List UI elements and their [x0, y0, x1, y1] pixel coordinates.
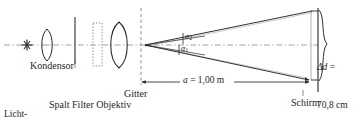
label-kondensor: Kondensor [30, 61, 74, 72]
spread-line1: Δd = [317, 61, 348, 74]
alpha1-subscript: 1 [185, 47, 188, 53]
label-schirm: Schirm [291, 98, 320, 109]
spread-equals: = [327, 62, 335, 72]
spread-symbol: Δd [317, 62, 327, 72]
label-angle-alpha1: α1 [181, 45, 188, 53]
spread-line2: 70,8 cm [317, 99, 348, 112]
annotation-distance: a = 1,00 m [183, 76, 224, 86]
star-icon [22, 40, 33, 51]
filter-icon [93, 23, 102, 66]
lens-icon-condenser [41, 29, 53, 61]
label-lichtquelle-line1: Licht- [4, 109, 27, 117]
annotation-spread: Δd = 70,8 cm [317, 35, 348, 117]
label-spalt-filter-objektiv: Spalt Filter Objektiv [49, 100, 131, 111]
label-angle-alpha2: α2 [185, 33, 192, 41]
label-gitter: Gitter [124, 89, 147, 100]
distance-equals: = [188, 75, 198, 85]
optics-diagram: Kondensor Licht- quelle Spalt Filter Obj… [0, 0, 359, 117]
ray-bundle [145, 11, 312, 80]
distance-value: 1,00 m [198, 75, 224, 85]
label-lichtquelle: Licht- quelle [4, 88, 27, 117]
alpha2-subscript: 2 [189, 35, 192, 41]
